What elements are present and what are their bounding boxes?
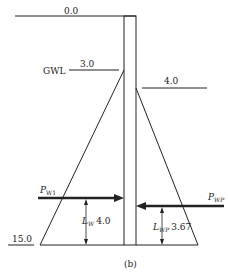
water-pressure-diagram: 0.0 GWL 3.0 4.0 15.0 PW1 PWP LW4.0 LWP3.…: [0, 0, 228, 274]
lwp-label: LWP3.67: [152, 222, 192, 233]
pwp-label: PWP: [207, 192, 225, 203]
bottom-level-label: 15.0: [12, 234, 32, 244]
pw1-label: PW1: [39, 185, 56, 196]
figure-caption: (b): [124, 259, 137, 269]
lw-label: LW4.0: [81, 216, 111, 227]
pw1-arrowhead-icon: [114, 194, 124, 202]
pwp-arrowhead-icon: [136, 202, 146, 210]
gwl-depth-label: 3.0: [80, 59, 95, 69]
lwp-down-arrow-icon: [160, 239, 164, 245]
sheet-pile-wall: [124, 16, 136, 245]
gwl-label: GWL: [43, 66, 65, 76]
lw-up-arrow-icon: [84, 199, 88, 205]
lwp-up-arrow-icon: [160, 207, 164, 213]
lw-down-arrow-icon: [84, 239, 88, 245]
top-level-label: 0.0: [64, 6, 79, 16]
passive-level-label: 4.0: [164, 76, 179, 86]
